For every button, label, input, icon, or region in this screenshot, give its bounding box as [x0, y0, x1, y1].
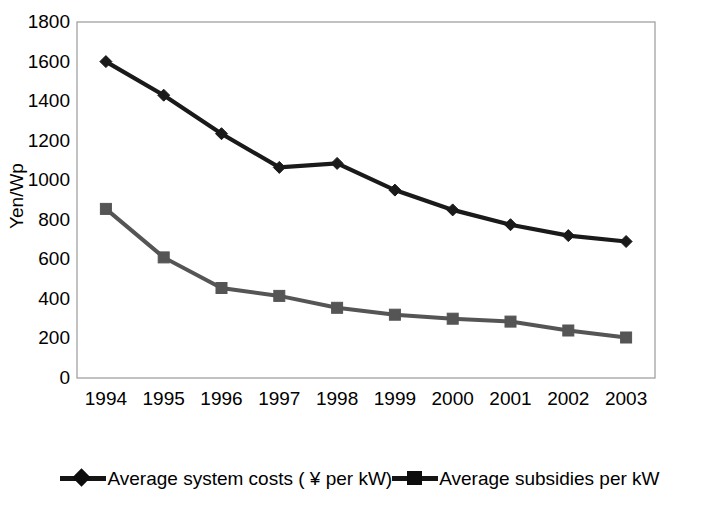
legend-diamond	[73, 468, 91, 486]
data-point-marker	[447, 313, 458, 324]
data-point-marker	[100, 203, 111, 214]
legend-entry: Average system costs ( ¥ per kW)	[60, 469, 392, 488]
x-axis-tick-labels: 1994199519961997199819992000200120022003	[77, 388, 655, 416]
diamond-marker-icon	[60, 469, 106, 487]
legend-label: Average subsidies per kW	[439, 469, 659, 488]
line-chart: Yen/Wp 180016001400120010008006004002000…	[0, 0, 720, 514]
data-point-marker	[563, 325, 574, 336]
legend-entry: Average subsidies per kW	[392, 469, 659, 488]
data-point-marker	[216, 283, 227, 294]
data-point-marker	[621, 332, 632, 343]
chart-legend: Average system costs ( ¥ per kW)Average …	[0, 455, 720, 501]
data-point-marker	[332, 302, 343, 313]
plot-area	[0, 0, 720, 430]
data-point-marker	[389, 309, 400, 320]
data-point-marker	[505, 316, 516, 327]
data-point-marker	[158, 252, 169, 263]
data-point-marker	[274, 290, 285, 301]
x-tick-label: 2003	[591, 388, 661, 410]
legend-square	[407, 471, 422, 485]
square-marker-icon	[392, 469, 438, 487]
legend-label: Average system costs ( ¥ per kW)	[107, 469, 392, 488]
